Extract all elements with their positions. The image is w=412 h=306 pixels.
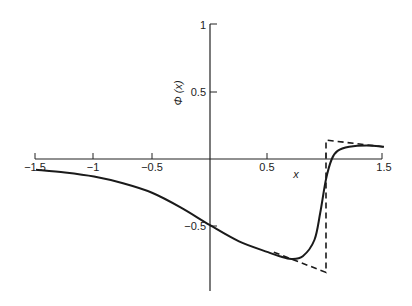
- chart: −1.5 −1 −0.5 0.5 1.5 x 1 0.5 −0.5 Φ (x): [0, 0, 412, 306]
- x-tick-label: 0.5: [259, 161, 274, 173]
- x-tick-label: −0.5: [141, 161, 163, 173]
- y-axis-label: Φ (x): [172, 80, 184, 105]
- dashed-curve: [274, 140, 384, 272]
- x-tick-label: 1.5: [376, 161, 391, 173]
- y-tick-label: 0.5: [191, 86, 206, 98]
- y-tick-label: 1: [200, 19, 206, 31]
- x-tick-label: −1: [87, 161, 100, 173]
- x-axis-label: x: [292, 168, 299, 180]
